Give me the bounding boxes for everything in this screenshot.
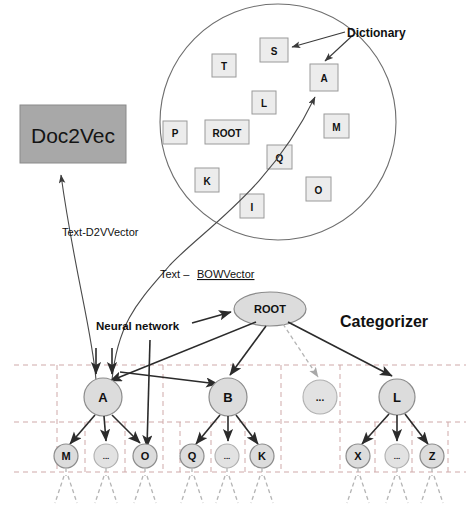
- node-label: A: [98, 390, 108, 405]
- fanout-o: [134, 468, 156, 503]
- edge-root-ellipsis: [283, 324, 318, 377]
- word-label: ROOT: [213, 128, 242, 139]
- word-label: K: [203, 176, 211, 187]
- dictionary-label: Dictionary: [347, 26, 406, 40]
- node-b: B: [209, 378, 247, 416]
- edge-text-to-doc2vec: [61, 175, 96, 380]
- edge-root-b: [230, 326, 266, 375]
- fanout-e1: [95, 468, 117, 503]
- edge-label-bowvector: Text – BOWVector: [160, 268, 255, 280]
- node-label: M: [61, 450, 70, 462]
- node-k: K: [250, 444, 274, 468]
- edge-neuralnet-pointer-a: [147, 340, 150, 447]
- edge-neuralnet-to-root: [192, 312, 231, 323]
- fanout-k: [251, 468, 273, 503]
- categorizer-title: Categorizer: [340, 313, 428, 330]
- arrows-into-node-a: [96, 348, 112, 374]
- fanout-e2: [216, 468, 238, 503]
- categorizer-root-node: ROOT: [234, 292, 306, 326]
- fanout-m: [55, 468, 77, 503]
- node-a: A: [84, 378, 122, 416]
- bow-prefix: Text –: [160, 268, 190, 280]
- word-box-s: S: [260, 38, 288, 62]
- node-label: ...: [103, 452, 110, 461]
- word-label: Q: [276, 153, 284, 164]
- dictionary-callout-arrows: [292, 32, 352, 61]
- word-box-p: P: [163, 121, 187, 144]
- word-label: M: [332, 122, 340, 133]
- word-box-m: M: [324, 114, 349, 138]
- root-node-label: ROOT: [254, 303, 286, 315]
- neural-network-label: Neural network: [96, 320, 180, 332]
- level2-nodes: A B ... L: [84, 378, 415, 416]
- fanout-z: [421, 468, 443, 503]
- node-label: Z: [429, 450, 436, 462]
- node-level3-ellipsis-2: ...: [215, 444, 239, 468]
- level3-nodes: M ... O Q ... K X ...: [54, 444, 444, 468]
- word-label: L: [261, 98, 267, 109]
- node-label: ...: [224, 452, 231, 461]
- fanout-x: [347, 468, 369, 503]
- word-box-q: Q: [267, 145, 292, 169]
- word-label: S: [271, 46, 278, 57]
- architecture-diagram: S T A L P ROOT M Q: [0, 0, 475, 518]
- node-label: ...: [316, 392, 325, 403]
- node-l: L: [379, 379, 415, 415]
- node-label: O: [141, 450, 150, 462]
- word-label: P: [172, 128, 179, 139]
- node-m: M: [54, 444, 78, 468]
- word-box-l: L: [252, 91, 276, 114]
- word-box-a: A: [310, 64, 338, 91]
- node-o: O: [133, 444, 157, 468]
- word-box-root: ROOT: [205, 120, 249, 144]
- node-label: Q: [188, 450, 197, 462]
- fanout-q: [181, 468, 203, 503]
- word-label: I: [251, 202, 254, 213]
- node-label: B: [223, 390, 232, 405]
- edge-crossing-to-b: [120, 372, 218, 384]
- bow-underlined: BOWVector: [197, 268, 255, 280]
- node-level3-ellipsis-3: ...: [385, 444, 409, 468]
- node-label: X: [354, 450, 362, 462]
- word-label: O: [315, 185, 323, 196]
- fanout-e3: [386, 468, 408, 503]
- edge-label-d2vvector: Text-D2VVector: [62, 226, 139, 238]
- word-box-k: K: [195, 168, 219, 192]
- dictionary-word-boxes: S T A L P ROOT M Q: [163, 38, 349, 218]
- word-box-o: O: [306, 177, 331, 201]
- doc2vec-label: Doc2Vec: [31, 124, 115, 147]
- node-z: Z: [420, 444, 444, 468]
- node-label: K: [258, 450, 266, 462]
- node-level3-ellipsis-1: ...: [94, 444, 118, 468]
- word-box-t: T: [212, 54, 236, 77]
- level2-to-level3-edges: [70, 414, 428, 444]
- word-label: T: [221, 61, 227, 72]
- doc2vec-box: Doc2Vec: [20, 105, 126, 163]
- node-level2-ellipsis: ...: [303, 380, 337, 414]
- node-x: X: [346, 444, 370, 468]
- node-label: L: [393, 390, 401, 405]
- node-label: ...: [394, 452, 401, 461]
- svg-text:Text –: Text –: [160, 268, 190, 280]
- level3-dashed-fanout: [55, 468, 443, 503]
- word-label: A: [320, 73, 327, 84]
- node-q: Q: [180, 444, 204, 468]
